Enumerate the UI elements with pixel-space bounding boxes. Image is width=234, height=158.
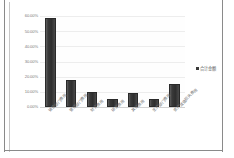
legend-label: 合计金额 [200,66,216,71]
y-axis-tick-label: 20.00% [12,74,38,79]
frame-border-right [222,0,223,152]
gridline [40,62,185,63]
gridline [40,92,185,93]
y-axis: 60.00%50.00%40.00%30.00%20.00%10.00%0.00… [10,0,38,158]
y-axis-tick-label: 0.00% [12,104,38,109]
legend-marker-icon [196,67,199,70]
y-axis-tick-label: 50.00% [12,29,38,34]
y-axis-tick-label: 40.00% [12,44,38,49]
y-axis-tick-label: 10.00% [12,89,38,94]
y-axis-tick-label: 30.00% [12,59,38,64]
bar[interactable] [45,18,56,107]
y-axis-tick-label: 60.00% [12,13,38,18]
gridline [40,77,185,78]
gridline [40,46,185,47]
gridline [40,31,185,32]
chart-container: 60.00%50.00%40.00%30.00%20.00%10.00%0.00… [0,0,234,158]
frame-border-left [4,0,5,152]
chart-legend[interactable]: 合计金额 [196,66,216,71]
gridline [40,16,185,17]
